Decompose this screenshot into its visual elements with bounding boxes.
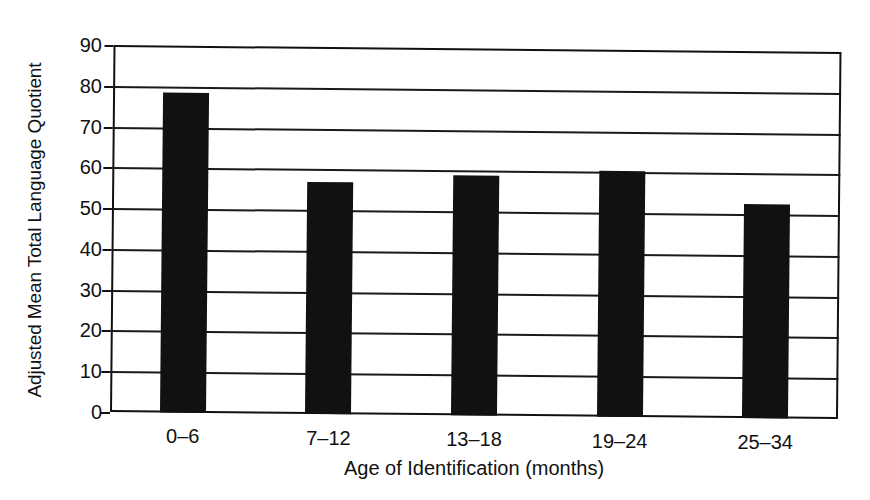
y-tick-mark	[101, 371, 110, 373]
bar	[742, 204, 790, 419]
bar-chart-figure: Adjusted Mean Total Language Quotient 01…	[0, 0, 870, 500]
bar	[160, 92, 209, 413]
bars-layer	[110, 45, 841, 419]
y-tick-label: 80	[52, 76, 102, 96]
y-tick-mark	[102, 330, 111, 332]
x-tick-label: 25–34	[705, 430, 825, 454]
y-tick-mark	[104, 86, 113, 88]
x-tick-label: 19–24	[560, 429, 680, 453]
y-tick-mark	[102, 290, 111, 292]
y-tick-label: 20	[52, 320, 102, 340]
y-tick-mark	[103, 208, 112, 210]
x-axis-title: Age of Identification (months)	[110, 456, 838, 480]
y-tick-mark	[101, 412, 110, 414]
x-tick-label: 13–18	[414, 427, 534, 451]
y-axis-title: Adjusted Mean Total Language Quotient	[22, 30, 48, 430]
bar	[597, 171, 645, 417]
y-tick-label: 90	[52, 35, 102, 55]
y-tick-label: 70	[52, 117, 102, 137]
y-tick-label: 30	[52, 280, 102, 300]
y-tick-label: 10	[52, 361, 102, 381]
plot-area	[110, 45, 841, 419]
x-tick-label: 7–12	[268, 426, 388, 450]
bar	[305, 181, 353, 414]
y-tick-label: 0	[52, 402, 102, 422]
y-tick-mark	[103, 249, 112, 251]
y-tick-mark	[104, 126, 113, 128]
bar	[451, 176, 499, 416]
y-tick-label: 50	[52, 198, 102, 218]
y-tick-label: 60	[52, 157, 102, 177]
y-tick-mark	[103, 167, 112, 169]
x-tick-label: 0–6	[123, 424, 243, 448]
y-tick-label: 40	[52, 239, 102, 259]
x-axis-tick-labels: 0–67–1213–1819–2425–34	[110, 424, 838, 452]
y-axis-tick-labels: 0102030405060708090	[52, 45, 102, 412]
y-tick-mark	[105, 45, 114, 47]
